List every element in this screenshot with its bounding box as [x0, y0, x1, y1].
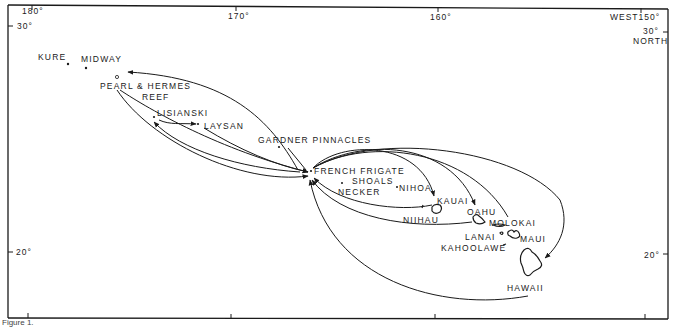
place-label-kauai: KAUAI: [437, 196, 469, 206]
place-label-kahoolawe: KAHOOLAWE: [441, 243, 506, 253]
latitude-label-30-right: 30°: [643, 26, 659, 36]
figure-caption: Figure 1.: [2, 318, 34, 327]
longitude-label-150-west: WEST150°: [610, 12, 660, 22]
hawaii-outline: [520, 248, 541, 275]
longitude-label-180: 180°: [22, 6, 44, 16]
place-label-molokai: MOLOKAI: [489, 218, 536, 228]
place-label-maui: MAUI: [520, 234, 546, 244]
place-label-niihau: NIIHAU: [403, 215, 439, 225]
place-label-lisianski: LISIANSKI: [157, 108, 208, 118]
place-label-kure: KURE: [38, 52, 66, 62]
place-label-nihoa: NIHOA: [399, 183, 432, 193]
place-label-lanai: LANAI: [465, 232, 496, 242]
movement-arrows: [117, 72, 564, 300]
place-label-oahu: OAHU: [467, 207, 496, 217]
latitude-label-north: NORTH: [633, 36, 668, 46]
maui-outline: [508, 230, 520, 238]
place-label-reef: REEF: [142, 92, 169, 102]
longitude-label-170: 170°: [228, 11, 250, 21]
longitude-label-160: 160°: [430, 12, 452, 22]
latitude-label-30-left: 30°: [17, 21, 33, 31]
place-label-gardner-pinnacles: GARDNER PINNACLES: [258, 135, 371, 145]
place-label-midway: MIDWAY: [81, 54, 122, 64]
place-label-french-frigate: FRENCH FRIGATE: [314, 166, 405, 176]
place-label-necker: NECKER: [338, 187, 381, 197]
place-label-laysan: LAYSAN: [204, 121, 244, 131]
map-frame: [8, 5, 668, 319]
place-label-hawaii: HAWAII: [507, 283, 544, 293]
place-label-pearl-hermes: PEARL & HERMES: [100, 81, 191, 91]
place-label-shoals: SHOALS: [352, 176, 394, 186]
latitude-label-20-left: 20°: [16, 247, 32, 257]
latitude-label-20-right: 20°: [644, 250, 660, 260]
lanai-outline: [500, 232, 503, 235]
map-canvas: [0, 0, 673, 328]
